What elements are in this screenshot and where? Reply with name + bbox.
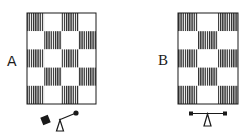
hatched-cell: [218, 13, 238, 31]
blank-cell: [62, 31, 79, 49]
balance-scale-b: [189, 112, 227, 127]
blank-cell: [44, 49, 61, 67]
figure-a-label: A: [7, 53, 17, 69]
hatched-cell: [198, 31, 218, 49]
blank-cell: [62, 68, 79, 86]
hatched-cell: [27, 49, 44, 67]
hatched-cell: [178, 86, 198, 104]
hatched-cell: [27, 13, 44, 31]
blank-cell: [218, 68, 238, 86]
right-weight-icon: [223, 112, 227, 116]
figure-a: A: [7, 13, 96, 131]
hatched-cell: [62, 86, 79, 104]
hatched-cell: [44, 68, 61, 86]
blank-cell: [79, 13, 96, 31]
blank-cell: [198, 86, 218, 104]
hatched-cell: [62, 49, 79, 67]
tilted-beam: [59, 113, 76, 120]
hatched-cell: [218, 86, 238, 104]
hatched-cell: [218, 49, 238, 67]
blank-cell: [44, 13, 61, 31]
checkerboard-grid-a: [27, 13, 96, 104]
figure-b: B: [158, 13, 238, 126]
hatched-cell: [79, 31, 96, 49]
small-weight-icon: [73, 110, 78, 115]
blank-cell: [27, 68, 44, 86]
hatched-cell: [79, 68, 96, 86]
hatched-cell: [178, 13, 198, 31]
hatched-cell: [62, 13, 79, 31]
blank-cell: [44, 86, 61, 104]
left-weight-icon: [189, 112, 193, 116]
fulcrum-icon: [204, 114, 211, 126]
large-weight-icon: [40, 115, 50, 125]
blank-cell: [178, 31, 198, 49]
blank-cell: [27, 31, 44, 49]
hatched-cell: [198, 68, 218, 86]
balance-scale-a: [40, 110, 78, 131]
diagram: A B: [0, 0, 245, 137]
blank-cell: [178, 68, 198, 86]
fulcrum-icon: [57, 120, 64, 131]
blank-cell: [218, 31, 238, 49]
blank-cell: [198, 49, 218, 67]
hatched-cell: [44, 31, 61, 49]
blank-cell: [79, 86, 96, 104]
blank-cell: [198, 13, 218, 31]
hatched-cell: [178, 49, 198, 67]
blank-cell: [79, 49, 96, 67]
hatched-cell: [27, 86, 44, 104]
figure-b-label: B: [158, 52, 168, 68]
checkerboard-grid-b: [178, 13, 238, 104]
